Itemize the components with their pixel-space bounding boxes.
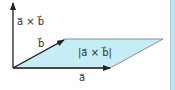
cross-product-diagram: a⃗ × b⃗ b⃗ |a⃗ × b⃗| a⃗ [0, 0, 175, 90]
vector-a-label: a⃗ [79, 73, 85, 83]
side-accent-bar [170, 0, 175, 90]
cross-product-label: a⃗ × b⃗ [17, 17, 44, 27]
vector-b-label: b⃗ [38, 39, 44, 49]
diagram-canvas [0, 0, 175, 90]
area-label: |a⃗ × b⃗| [78, 48, 112, 58]
